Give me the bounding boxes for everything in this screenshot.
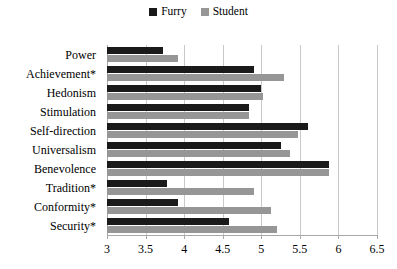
- plot-area: [107, 45, 377, 235]
- tick-mark: [184, 235, 185, 239]
- bar-group: [107, 197, 377, 216]
- x-tick-label: 3.5: [138, 243, 153, 255]
- bar-group: [107, 178, 377, 197]
- bar-group: [107, 121, 377, 140]
- bar-student: [107, 55, 178, 62]
- legend-label-furry: Furry: [161, 6, 187, 18]
- bar-student: [107, 169, 329, 176]
- bar-chart: Furry Student PowerAchievement*HedonismS…: [0, 0, 397, 269]
- bar-group: [107, 216, 377, 235]
- gridline: [377, 45, 378, 235]
- x-tick-label: 6.5: [370, 243, 385, 255]
- bar-group: [107, 83, 377, 102]
- bar-furry: [107, 218, 229, 225]
- bar-furry: [107, 66, 254, 73]
- bar-furry: [107, 123, 308, 130]
- x-tick-label: 3: [104, 243, 110, 255]
- legend-entry-furry: Furry: [149, 6, 187, 18]
- bar-student: [107, 188, 254, 195]
- bar-furry: [107, 199, 178, 206]
- tick-mark: [107, 235, 108, 239]
- bar-group: [107, 64, 377, 83]
- category-label: Conformity*: [34, 201, 96, 213]
- tick-mark: [261, 235, 262, 239]
- category-label: Stimulation: [40, 106, 96, 118]
- bar-student: [107, 150, 290, 157]
- category-label: Tradition*: [46, 182, 96, 194]
- bar-student: [107, 112, 249, 119]
- bar-student: [107, 207, 271, 214]
- category-label: Achievement*: [26, 68, 96, 80]
- x-tick-label: 5.5: [292, 243, 307, 255]
- chart-legend: Furry Student: [0, 6, 397, 18]
- category-label: Power: [65, 49, 96, 61]
- bar-furry: [107, 104, 249, 111]
- tick-mark: [338, 235, 339, 239]
- bar-furry: [107, 85, 261, 92]
- bar-student: [107, 226, 277, 233]
- x-axis-line: [107, 235, 377, 236]
- category-label: Benevolence: [34, 163, 96, 175]
- bar-furry: [107, 180, 167, 187]
- legend-swatch-student: [201, 8, 209, 16]
- bar-student: [107, 74, 284, 81]
- x-tick-label: 6: [335, 243, 341, 255]
- x-tick-label: 5: [258, 243, 264, 255]
- bar-student: [107, 93, 263, 100]
- tick-mark: [223, 235, 224, 239]
- tick-mark: [146, 235, 147, 239]
- category-label: Self-direction: [30, 125, 96, 137]
- legend-label-student: Student: [213, 6, 248, 18]
- tick-mark: [300, 235, 301, 239]
- bar-student: [107, 131, 298, 138]
- bar-group: [107, 159, 377, 178]
- x-tick-label: 4.5: [215, 243, 230, 255]
- bar-furry: [107, 161, 329, 168]
- category-label: Hedonism: [47, 87, 96, 99]
- bar-group: [107, 140, 377, 159]
- category-label: Universalism: [32, 144, 96, 156]
- category-label: Security*: [50, 220, 96, 232]
- bar-furry: [107, 47, 163, 54]
- bar-group: [107, 45, 377, 64]
- legend-entry-student: Student: [201, 6, 248, 18]
- bar-furry: [107, 142, 281, 149]
- bar-group: [107, 102, 377, 121]
- legend-swatch-furry: [149, 8, 157, 16]
- tick-mark: [377, 235, 378, 239]
- x-tick-label: 4: [181, 243, 187, 255]
